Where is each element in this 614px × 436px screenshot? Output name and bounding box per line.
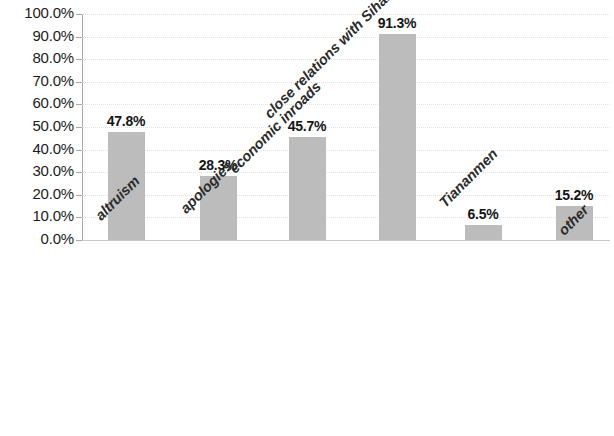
y-axis-tick-label: 30.0% [0,162,74,179]
bar-value-label: 6.5% [467,206,498,222]
gridline [82,195,610,197]
bar-group: 6.5% [465,14,502,240]
bar [289,137,326,240]
y-axis-tick-label: 40.0% [0,140,74,157]
plot-area: 47.8%28.3%45.7%91.3%6.5%15.2% [82,14,610,240]
gridline [82,217,610,219]
gridline [82,127,610,129]
bar-value-label: 47.8% [107,113,146,129]
gridline [82,82,610,84]
y-axis-tick-label: 90.0% [0,27,74,44]
y-axis-tick-label: 0.0% [0,230,74,247]
bar-group: 45.7% [289,14,326,240]
gridline [82,150,610,152]
gridline [82,104,610,106]
y-axis-tick-label: 100.0% [0,4,74,21]
bar-group: 91.3% [379,14,416,240]
y-axis-labels: 100.0%90.0%80.0%70.0%60.0%50.0%40.0%30.0… [0,0,76,436]
bar-value-label: 15.2% [555,187,594,203]
bar [379,34,416,240]
bar-group: 28.3% [200,14,237,240]
gridline [82,172,610,174]
gridline [82,14,610,16]
y-axis-tick-label: 60.0% [0,94,74,111]
bar-value-label: 91.3% [378,15,417,31]
y-axis-tick-label: 50.0% [0,117,74,134]
x-axis-baseline [82,240,610,242]
bar-chart: 100.0%90.0%80.0%70.0%60.0%50.0%40.0%30.0… [0,0,614,436]
bar [465,225,502,240]
y-axis-tick-label: 20.0% [0,185,74,202]
y-axis-tick-label: 80.0% [0,49,74,66]
y-axis-tick-label: 70.0% [0,72,74,89]
gridline [82,59,610,61]
y-axis-tick-label: 10.0% [0,207,74,224]
